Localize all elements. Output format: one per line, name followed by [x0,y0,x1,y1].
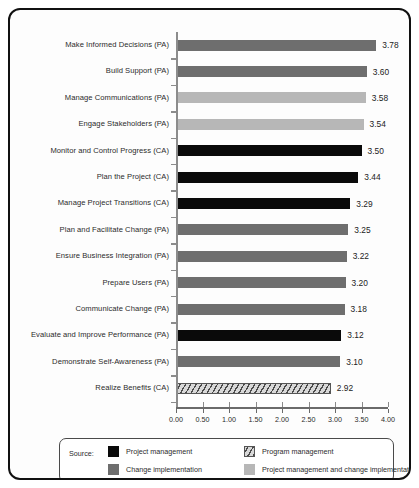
legend-item-project-management-and-change-implementation[interactable]: Project management and change implementa… [244,464,411,475]
x-axis-tick-label: 2.50 [302,415,316,424]
bar-value-label: 3.60 [373,67,389,77]
bar-project-management[interactable] [176,330,341,341]
legend-swatch-project-management [108,446,119,457]
bar-value-label: 3.54 [370,119,386,129]
bar-change-implementation[interactable] [176,356,340,367]
bar-value-label: 2.92 [337,383,353,393]
bar-program-management[interactable] [176,383,331,394]
legend-item-change-implementation[interactable]: Change implementation [108,464,202,475]
bar-project-management[interactable] [176,198,350,209]
legend-label: Change implementation [126,465,202,474]
bar-change-implementation[interactable] [176,304,345,315]
bar-value-label: 3.10 [346,357,362,367]
legend-swatch-project-management-and-change-implementation [244,464,255,475]
chart-legend: Source: Project managementProgram manage… [59,438,394,480]
bar-zone: 3.54 [176,111,411,137]
category-tick [171,217,176,218]
x-axis-tick-label: 3.00 [328,415,342,424]
x-axis-tick [282,409,283,414]
bar-zone: 3.25 [176,217,411,243]
x-axis-tick [388,409,389,414]
category-tick [171,243,176,244]
category-label: Plan the Project (CA) [10,173,176,181]
bar-row: Plan and Facilitate Change (PA)3.25 [10,217,411,243]
x-axis-tick-upper [282,402,283,407]
bar-change-implementation[interactable] [176,251,347,262]
bar-value-label: 3.78 [382,40,398,50]
category-tick [171,190,176,191]
category-label: Manage Communications (PA) [10,94,176,102]
bar-project-management-and-change-implementation[interactable] [176,92,366,103]
x-axis-tick [203,409,204,414]
x-axis-tick-label: 4.00 [381,415,395,424]
legend-item-project-management[interactable]: Project management [108,446,192,457]
figure-frame: Make Informed Decisions (PA)3.78Build Su… [8,8,411,480]
x-axis-tick-label: 3.50 [355,415,369,424]
legend-swatch-program-management [244,446,255,457]
legend-label: Program management [262,447,334,456]
x-axis-tick-upper [335,402,336,407]
bar-row: Manage Project Transitions (CA)3.29 [10,190,411,216]
bar-zone: 3.58 [176,85,411,111]
bar-change-implementation[interactable] [176,224,348,235]
bar-change-implementation[interactable] [176,66,367,77]
x-axis-tick [335,409,336,414]
x-axis-tick-upper [176,402,177,407]
bar-value-label: 3.12 [347,330,363,340]
bar-zone: 3.20 [176,270,411,296]
bar-row: Monitor and Control Progress (CA)3.50 [10,138,411,164]
category-label: Demonstrate Self-Awareness (PA) [10,358,176,366]
x-axis-tick-label: 1.50 [249,415,263,424]
bar-row: Demonstrate Self-Awareness (PA)3.10 [10,349,411,375]
bar-zone: 2.92 [176,375,411,401]
category-label: Realize Benefits (CA) [10,384,176,392]
bar-zone: 3.44 [176,164,411,190]
bar-value-label: 3.58 [372,93,388,103]
bar-value-label: 3.25 [354,225,370,235]
x-axis-tick-upper [388,402,389,407]
category-tick [171,375,176,376]
legend-item-program-management[interactable]: Program management [244,446,334,457]
category-label: Prepare Users (PA) [10,279,176,287]
x-axis-tick-label: 0.50 [196,415,210,424]
category-label: Make Informed Decisions (PA) [10,41,176,49]
bar-value-label: 3.50 [368,146,384,156]
category-label: Monitor and Control Progress (CA) [10,147,176,155]
bar-value-label: 3.20 [352,278,368,288]
bar-project-management[interactable] [176,145,362,156]
x-axis-tick [256,409,257,414]
value-axis: 0.000.501.001.502.002.503.003.504.00 [10,407,411,431]
bar-row: Make Informed Decisions (PA)3.78 [10,32,411,58]
bar-row: Realize Benefits (CA)2.92 [10,375,411,401]
bar-change-implementation[interactable] [176,277,346,288]
bar-change-implementation[interactable] [176,40,376,51]
bar-value-label: 3.22 [353,251,369,261]
bar-zone: 3.29 [176,190,411,216]
bar-value-label: 3.29 [356,199,372,209]
category-tick [171,138,176,139]
bar-zone: 3.18 [176,296,411,322]
bar-value-label: 3.44 [364,172,380,182]
category-axis-spine [176,32,178,407]
bar-row: Build Support (PA)3.60 [10,58,411,84]
x-axis-tick-upper [256,402,257,407]
category-tick [171,164,176,165]
x-axis-tick-label: 1.00 [222,415,236,424]
x-axis-tick [229,409,230,414]
category-tick [171,85,176,86]
bar-zone: 3.10 [176,349,411,375]
bar-zone: 3.12 [176,322,411,348]
category-label: Plan and Facilitate Change (PA) [10,226,176,234]
x-axis-tick-upper [229,402,230,407]
category-label: Engage Stakeholders (PA) [10,120,176,128]
bar-project-management-and-change-implementation[interactable] [176,119,364,130]
category-label: Manage Project Transitions (CA) [10,199,176,207]
category-label: Ensure Business Integration (PA) [10,252,176,260]
bar-zone: 3.60 [176,58,411,84]
bar-row: Manage Communications (PA)3.58 [10,85,411,111]
category-tick [171,296,176,297]
chart-plot-area: Make Informed Decisions (PA)3.78Build Su… [10,32,411,407]
x-axis-tick-label: 0.00 [169,415,183,424]
category-tick [171,349,176,350]
bar-project-management[interactable] [176,172,358,183]
